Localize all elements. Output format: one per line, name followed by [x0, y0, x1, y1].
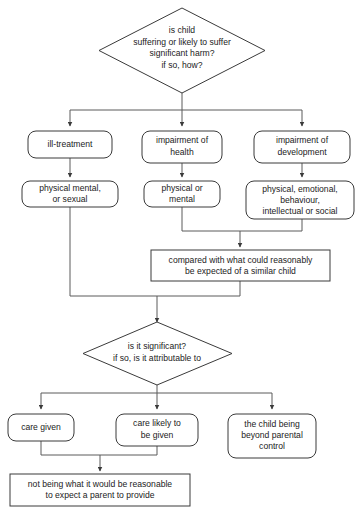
node-child-beyond-parental-control[interactable]: the child being beyond parental control: [228, 414, 316, 458]
node-ill-treatment[interactable]: ill-treatment: [28, 131, 112, 158]
node-text-line: care likely to: [133, 418, 181, 428]
node-text-line: is it significant?: [128, 341, 186, 351]
node-care-likely-to-be-given[interactable]: care likely to be given: [116, 414, 198, 446]
connector-out1-to-merge2: [41, 441, 100, 455]
node-text-line: significant harm?: [150, 48, 215, 58]
node-text-line: the child being: [244, 419, 300, 429]
connector-sub1-to-q2-feed: [70, 207, 157, 296]
node-question-is-it-significant[interactable]: is it significant? if so, is it attribut…: [83, 322, 232, 385]
node-text-line: behaviour,: [280, 195, 320, 205]
node-text-line: physical mental,: [39, 183, 101, 193]
node-text-line: ill-treatment: [48, 139, 94, 149]
node-text-line: be expected of a similar child: [185, 266, 296, 276]
node-physical-or-mental[interactable]: physical or mental: [144, 181, 220, 207]
node-text-line: beyond parental: [241, 430, 303, 440]
node-text-line: if so, how?: [161, 60, 202, 70]
node-text-line: is child: [169, 25, 195, 35]
connector-sub3-to-merge: [240, 219, 302, 231]
node-physical-mental-or-sexual[interactable]: physical mental, or sexual: [22, 181, 118, 207]
flowchart-diagram: is child suffering or likely to suffer s…: [0, 0, 358, 518]
node-text-line: to expect a parent to provide: [46, 490, 155, 500]
connector-compare-to-q2: [157, 281, 240, 322]
node-text-line: if so, is it attributable to: [113, 353, 201, 363]
node-not-being-reasonable-parent-provision[interactable]: not being what it would be reasonable to…: [10, 474, 190, 506]
node-text-line: care given: [21, 422, 61, 432]
node-text-line: physical, emotional,: [262, 184, 337, 194]
node-text-line: impairment of: [156, 135, 209, 145]
connector-sub2-to-merge: [182, 207, 240, 231]
node-care-given[interactable]: care given: [8, 414, 74, 441]
node-text-line: physical or: [161, 183, 202, 193]
node-text-line: control: [259, 441, 285, 451]
node-text-line: impairment of: [276, 135, 329, 145]
node-question-significant-harm[interactable]: is child suffering or likely to suffer s…: [99, 8, 265, 93]
node-text-line: suffering or likely to suffer: [133, 37, 231, 47]
node-text-line: not being what it would be reasonable: [28, 479, 173, 489]
node-physical-emotional-behaviour-intellectual-or-social[interactable]: physical, emotional, behaviour, intellec…: [246, 181, 354, 219]
node-text-line: intellectual or social: [263, 206, 338, 216]
node-text-line: be given: [141, 430, 174, 440]
node-text-line: health: [170, 147, 194, 157]
node-text-line: compared with what could reasonably: [169, 255, 313, 265]
node-impairment-of-health[interactable]: impairment of health: [142, 131, 222, 163]
node-text-line: or sexual: [53, 194, 88, 204]
node-text-line: mental: [169, 194, 195, 204]
node-impairment-of-development[interactable]: impairment of development: [254, 131, 350, 163]
connector-out2-to-merge2: [100, 446, 157, 455]
node-text-line: development: [277, 147, 327, 157]
node-compared-with-similar-child[interactable]: compared with what could reasonably be e…: [151, 250, 330, 281]
